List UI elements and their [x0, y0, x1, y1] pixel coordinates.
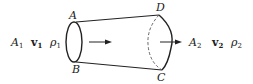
flow-arrow-inside [89, 40, 112, 45]
pipe-top-edge [76, 15, 159, 22]
continuity-diagram: A B D C A1 v1 ρ1 A2 v2 ρ2 [0, 0, 253, 84]
inlet-velocity-label: v1 [30, 36, 42, 50]
outlet-density-label: ρ2 [230, 36, 242, 50]
flow-arrow-outlet [160, 40, 182, 45]
point-label-d: D [155, 1, 165, 14]
point-label-b: B [71, 63, 80, 76]
inlet-area-label: A1 [10, 36, 23, 50]
point-label-c: C [157, 71, 166, 84]
inlet-density-label: ρ1 [49, 36, 61, 50]
outlet-cross-section-back [148, 15, 162, 70]
point-label-a: A [68, 9, 77, 22]
pipe-bottom-edge [76, 62, 162, 70]
inlet-cross-section [66, 22, 82, 62]
outlet-area-label: A2 [188, 36, 201, 50]
outlet-velocity-label: v2 [211, 36, 223, 50]
